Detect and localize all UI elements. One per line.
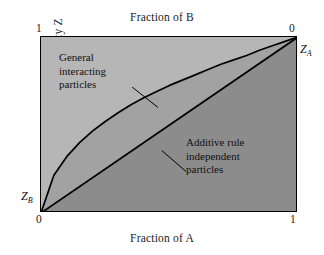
annotation-general-line-3: particles — [59, 78, 106, 92]
annotation-additive-line-2: independent — [186, 150, 244, 164]
endpoint-subscript-za: A — [307, 49, 312, 58]
endpoint-symbol-zb: Z — [21, 189, 28, 203]
annotation-additive-rule-independent-particles: Additive rule independent particles — [186, 136, 244, 177]
endpoint-subscript-zb: B — [28, 196, 33, 205]
top-axis-title: Fraction of B — [0, 11, 324, 23]
annotation-general-interacting-particles: General interacting particles — [59, 51, 106, 92]
endpoint-label-zb: ZB — [21, 189, 33, 205]
tick-bottom-left: 0 — [36, 213, 42, 225]
tick-top-left: 1 — [36, 22, 42, 34]
tick-bottom-right: 1 — [290, 213, 296, 225]
endpoint-symbol-za: Z — [300, 42, 307, 56]
annotation-general-line-2: interacting — [59, 65, 106, 79]
chart-figure: Fraction of B 1 0 Property Z ZA ZB Gener… — [0, 0, 324, 255]
endpoint-label-za: ZA — [300, 42, 312, 58]
annotation-general-line-1: General — [59, 51, 106, 65]
annotation-additive-line-3: particles — [186, 163, 244, 177]
bottom-axis-title: Fraction of A — [0, 232, 324, 244]
tick-top-right: 0 — [289, 22, 295, 34]
annotation-additive-line-1: Additive rule — [186, 136, 244, 150]
